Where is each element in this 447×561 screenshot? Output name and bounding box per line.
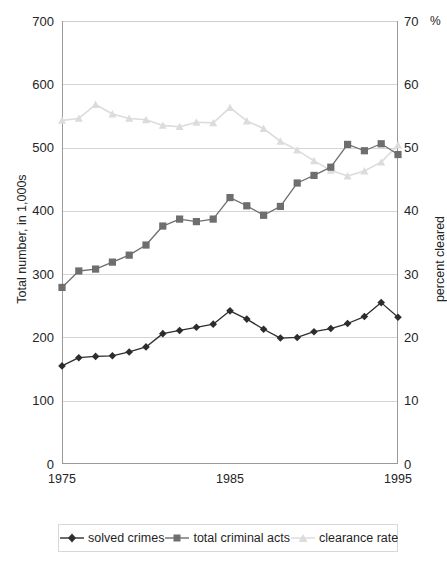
x-tick-1995: 1995 bbox=[368, 473, 428, 486]
x-tick-1975: 1975 bbox=[32, 473, 92, 486]
y-axis-title-right: percent cleared bbox=[433, 189, 447, 329]
plot-area bbox=[62, 21, 398, 464]
chart-legend: solved crimes total criminal acts cleara… bbox=[58, 524, 398, 552]
y-tick-left-100: 100 bbox=[8, 394, 54, 407]
y-tick-left-200: 200 bbox=[8, 331, 54, 344]
y-tick-right-0: 0 bbox=[404, 458, 444, 471]
square-marker-icon bbox=[164, 532, 190, 544]
legend-item-solved-crimes[interactable]: solved crimes bbox=[59, 532, 164, 545]
y-tick-right-60: 60 bbox=[404, 78, 444, 91]
legend-item-total-criminal-acts[interactable]: total criminal acts bbox=[164, 532, 290, 545]
gridline-300 bbox=[63, 274, 397, 275]
y-tick-left-600: 600 bbox=[8, 78, 54, 91]
triangle-marker-icon bbox=[290, 532, 316, 544]
gridline-400 bbox=[63, 211, 397, 212]
y-tick-right-20: 20 bbox=[404, 331, 444, 344]
y-tick-right-10: 10 bbox=[404, 394, 444, 407]
legend-label-solved-crimes: solved crimes bbox=[88, 532, 164, 545]
percent-sign-label: % bbox=[430, 15, 441, 27]
y-axis-title-left: Total number, in 1,000s bbox=[15, 169, 29, 309]
gridline-200 bbox=[63, 337, 397, 338]
y-tick-left-700: 700 bbox=[8, 15, 54, 28]
diamond-marker-icon bbox=[59, 532, 85, 544]
legend-label-total-criminal-acts: total criminal acts bbox=[193, 532, 290, 545]
y-tick-right-50: 50 bbox=[404, 141, 444, 154]
gridline-500 bbox=[63, 148, 397, 149]
gridline-700 bbox=[63, 21, 397, 22]
x-tick-1985: 1985 bbox=[200, 473, 260, 486]
y-tick-left-0: 0 bbox=[8, 458, 54, 471]
gridline-100 bbox=[63, 401, 397, 402]
legend-label-clearance-rate: clearance rate bbox=[319, 532, 398, 545]
gridline-600 bbox=[63, 84, 397, 85]
legend-item-clearance-rate[interactable]: clearance rate bbox=[290, 532, 398, 545]
y-tick-left-500: 500 bbox=[8, 141, 54, 154]
